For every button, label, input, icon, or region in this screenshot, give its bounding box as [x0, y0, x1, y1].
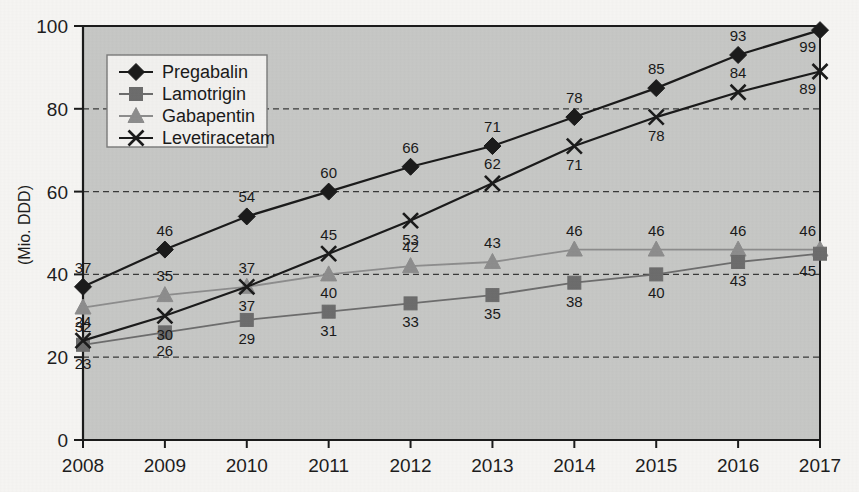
marker-lamotrigin-2017	[814, 247, 827, 260]
data-label-levetiracetam-2014: 71	[566, 156, 583, 173]
legend-label-levetiracetam: Levetiracetam	[162, 128, 275, 148]
y-tick-label-0: 0	[57, 430, 68, 451]
data-label-levetiracetam-2016: 84	[730, 64, 747, 81]
data-label-gabapentin-2013: 43	[484, 234, 501, 251]
data-label-lamotrigin-2011: 31	[320, 322, 337, 339]
data-label-pregabalin-2012: 66	[402, 139, 419, 156]
data-label-levetiracetam-2008: 24	[75, 313, 92, 330]
x-tick-label-2012: 2012	[389, 455, 431, 476]
data-label-pregabalin-2010: 54	[238, 188, 255, 205]
marker-lamotrigin-2014	[568, 276, 581, 289]
y-tick-label-20: 20	[47, 347, 68, 368]
chart-figure: 020406080100 200820092010201120122013201…	[0, 0, 859, 492]
data-label-pregabalin-2015: 85	[648, 60, 665, 77]
data-label-gabapentin-2014: 46	[566, 222, 583, 239]
x-tick-label-2017: 2017	[799, 455, 841, 476]
square-marker-icon	[130, 88, 143, 101]
legend-label-gabapentin: Gabapentin	[162, 106, 255, 126]
data-label-pregabalin-2008: 37	[75, 259, 92, 276]
data-label-lamotrigin-2012: 33	[402, 313, 419, 330]
marker-lamotrigin-2016	[732, 255, 745, 268]
y-tick-label-100: 100	[36, 16, 68, 37]
data-label-levetiracetam-2010: 37	[238, 297, 255, 314]
x-tick-label-2016: 2016	[717, 455, 759, 476]
data-label-gabapentin-2011: 40	[320, 284, 337, 301]
x-tick-label-2015: 2015	[635, 455, 677, 476]
data-label-lamotrigin-2010: 29	[238, 330, 255, 347]
data-label-pregabalin-2016: 93	[730, 27, 747, 44]
data-label-levetiracetam-2012: 53	[402, 231, 419, 248]
x-tick-label-2009: 2009	[144, 455, 186, 476]
data-label-gabapentin-2010: 37	[238, 259, 255, 276]
x-tick-label-2013: 2013	[471, 455, 513, 476]
y-axis-title: (Mio. DDD)	[16, 185, 33, 265]
legend: PregabalinLamotriginGabapentinLevetirace…	[107, 55, 275, 148]
marker-lamotrigin-2011	[322, 305, 335, 318]
data-label-lamotrigin-2016: 43	[730, 272, 747, 289]
x-tick-label-2010: 2010	[226, 455, 268, 476]
data-label-gabapentin-2015: 46	[648, 222, 665, 239]
y-tick-label-60: 60	[47, 182, 68, 203]
data-label-lamotrigin-2017: 45	[799, 262, 816, 279]
marker-lamotrigin-2015	[650, 268, 663, 281]
data-label-pregabalin-2013: 71	[484, 118, 501, 135]
data-label-gabapentin-2017: 46	[799, 222, 816, 239]
x-tick-label-2014: 2014	[553, 455, 596, 476]
data-label-lamotrigin-2013: 35	[484, 305, 501, 322]
x-axis-tick-labels: 2008200920102011201220132014201520162017	[62, 455, 841, 476]
data-label-lamotrigin-2014: 38	[566, 293, 583, 310]
data-label-lamotrigin-2015: 40	[648, 284, 665, 301]
data-label-pregabalin-2017: 99	[799, 38, 816, 55]
data-label-levetiracetam-2011: 45	[320, 226, 337, 243]
x-tick-label-2011: 2011	[308, 455, 349, 476]
data-label-pregabalin-2011: 60	[320, 164, 337, 181]
y-tick-label-80: 80	[47, 99, 68, 120]
data-label-lamotrigin-2009: 26	[157, 342, 174, 359]
data-label-levetiracetam-2015: 78	[648, 127, 665, 144]
legend-item-lamotrigin[interactable]: Lamotrigin	[119, 84, 246, 104]
y-tick-label-40: 40	[47, 264, 68, 285]
data-label-gabapentin-2009: 35	[157, 267, 174, 284]
data-label-levetiracetam-2009: 30	[157, 326, 174, 343]
legend-label-lamotrigin: Lamotrigin	[162, 84, 246, 104]
marker-lamotrigin-2012	[404, 297, 417, 310]
data-label-lamotrigin-2008: 23	[75, 355, 92, 372]
x-tick-label-2008: 2008	[62, 455, 104, 476]
legend-label-pregabalin: Pregabalin	[162, 62, 248, 82]
legend-item-levetiracetam[interactable]: Levetiracetam	[119, 128, 275, 148]
data-label-levetiracetam-2013: 62	[484, 155, 501, 172]
marker-lamotrigin-2010	[240, 313, 253, 326]
data-label-pregabalin-2009: 46	[157, 222, 174, 239]
data-label-levetiracetam-2017: 89	[799, 80, 816, 97]
y-axis-tick-labels: 020406080100	[36, 16, 68, 451]
marker-lamotrigin-2013	[486, 289, 499, 302]
data-label-pregabalin-2014: 78	[566, 89, 583, 106]
data-label-gabapentin-2016: 46	[730, 222, 747, 239]
line-chart-canvas: 020406080100 200820092010201120122013201…	[0, 0, 859, 492]
